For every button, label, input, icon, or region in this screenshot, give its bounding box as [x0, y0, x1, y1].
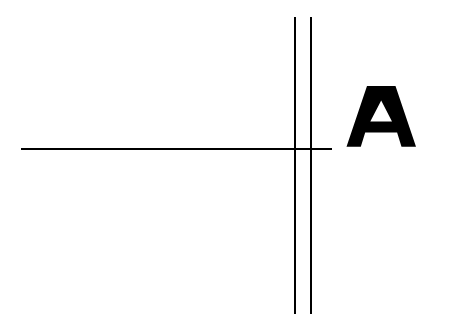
vertical-line-left [294, 17, 296, 314]
letter-a-label: A [345, 152, 346, 153]
vertical-line-right [310, 17, 312, 314]
letter-a-glyph: A [345, 82, 419, 152]
horizontal-line [21, 148, 332, 150]
drawing-canvas: A [0, 0, 451, 322]
